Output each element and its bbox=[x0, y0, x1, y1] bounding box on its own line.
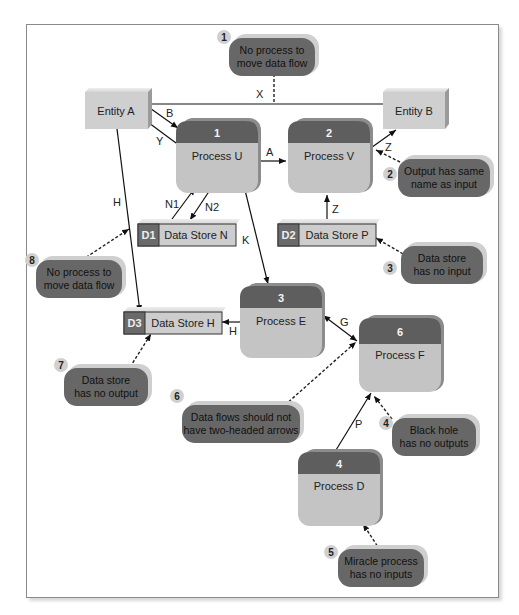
entity-a[interactable]: Entity A bbox=[85, 88, 152, 129]
data-store-p[interactable]: D2 Data Store P bbox=[278, 219, 380, 246]
flow-label-h-process: H bbox=[229, 325, 237, 337]
flow-label-b: B bbox=[166, 107, 173, 119]
svg-text:7: 7 bbox=[58, 360, 64, 371]
flow-label-k: K bbox=[242, 234, 250, 246]
process-d-label: Process D bbox=[314, 480, 365, 492]
flow-label-z-output: Z bbox=[385, 141, 392, 153]
note-7-line1: Data store bbox=[82, 374, 131, 386]
note-7-line2: has no output bbox=[74, 387, 138, 399]
note-6-line2: have two-headed arrows bbox=[184, 424, 299, 436]
note-8-line1: No process to bbox=[47, 266, 112, 278]
entity-a-label: Entity A bbox=[97, 105, 135, 117]
process-d-number: 4 bbox=[336, 458, 343, 470]
note-2-line1: Output has same bbox=[404, 165, 484, 177]
note-8-line2: move data flow bbox=[44, 279, 115, 291]
note-2-line2: name as input bbox=[411, 178, 477, 190]
data-store-p-label: Data Store P bbox=[306, 229, 369, 241]
svg-text:4: 4 bbox=[383, 418, 389, 429]
entity-b-label: Entity B bbox=[395, 105, 433, 117]
note-1-line2: move data flow bbox=[237, 57, 308, 69]
note-5: 5 Miracle process has no inputs bbox=[324, 545, 428, 587]
note-3-line1: Data store bbox=[418, 252, 467, 264]
svg-text:5: 5 bbox=[328, 547, 334, 558]
pointer-note-4 bbox=[374, 396, 392, 419]
data-store-h-label: Data Store H bbox=[151, 317, 215, 329]
data-store-h-id: D3 bbox=[127, 317, 141, 329]
process-e-number: 3 bbox=[278, 292, 284, 304]
dfd-diagram: X B Y A Z Z N1 N2 H K H G P Entity A bbox=[0, 0, 519, 615]
entity-b[interactable]: Entity B bbox=[383, 88, 449, 129]
note-4-line2: has no outputs bbox=[400, 437, 469, 449]
process-v[interactable]: 2 Process V bbox=[288, 118, 373, 193]
note-4-line1: Black hole bbox=[410, 424, 459, 436]
note-1-line1: No process to bbox=[240, 44, 305, 56]
process-f-label: Process F bbox=[375, 349, 425, 361]
process-u-number: 1 bbox=[214, 127, 220, 139]
note-3-line2: has no input bbox=[413, 265, 470, 277]
process-d[interactable]: 4 Process D bbox=[298, 449, 383, 526]
svg-text:2: 2 bbox=[387, 169, 393, 180]
process-e-label: Process E bbox=[256, 315, 306, 327]
note-5-line2: has no inputs bbox=[350, 568, 412, 580]
flow-label-x: X bbox=[256, 88, 264, 100]
process-u-label: Process U bbox=[192, 150, 243, 162]
flow-label-y: Y bbox=[156, 135, 164, 147]
data-store-n-id: D1 bbox=[141, 229, 155, 241]
flow-label-n2: N2 bbox=[205, 201, 219, 213]
data-store-n[interactable]: D1 Data Store N bbox=[138, 219, 240, 246]
process-f[interactable]: 6 Process F bbox=[359, 315, 444, 392]
note-1: 1 No process to move data flow bbox=[217, 30, 319, 76]
pointer-note-3 bbox=[376, 238, 403, 254]
pointer-note-8 bbox=[82, 229, 129, 260]
note-3: 3 Data store has no input bbox=[383, 242, 487, 284]
note-6: 6 Data flows should not have two-headed … bbox=[170, 389, 304, 443]
svg-text:6: 6 bbox=[174, 391, 180, 402]
process-v-label: Process V bbox=[304, 150, 355, 162]
process-u[interactable]: 1 Process U bbox=[176, 118, 261, 193]
process-v-number: 2 bbox=[326, 127, 332, 139]
note-6-line1: Data flows should not bbox=[191, 411, 291, 423]
flow-label-g: G bbox=[340, 316, 349, 328]
pointer-note-7 bbox=[130, 334, 151, 367]
note-8: 8 No process to move data flow bbox=[25, 253, 126, 298]
process-e[interactable]: 3 Process E bbox=[240, 283, 325, 358]
flow-label-a: A bbox=[266, 146, 274, 158]
flow-p bbox=[336, 393, 371, 450]
flow-label-n1: N1 bbox=[165, 198, 179, 210]
note-4: 4 Black hole has no outputs bbox=[379, 414, 480, 456]
data-store-h[interactable]: D3 Data Store H bbox=[124, 307, 226, 334]
flow-label-h-entity: H bbox=[113, 196, 121, 208]
note-7: 7 Data store has no output bbox=[54, 358, 152, 406]
process-f-number: 6 bbox=[397, 326, 403, 338]
data-store-p-id: D2 bbox=[281, 229, 295, 241]
svg-text:1: 1 bbox=[221, 32, 227, 43]
svg-text:8: 8 bbox=[29, 255, 35, 266]
flow-label-z-store: Z bbox=[332, 203, 339, 215]
flow-label-p: P bbox=[355, 418, 362, 430]
note-5-line1: Miracle process bbox=[344, 555, 418, 567]
svg-text:3: 3 bbox=[387, 263, 393, 274]
data-store-n-label: Data Store N bbox=[164, 229, 228, 241]
